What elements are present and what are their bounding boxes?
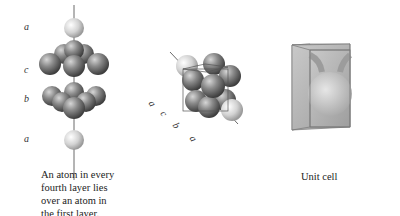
atom-layer-a-bottom <box>64 130 84 150</box>
left-caption: An atom in every fourth layer lies over … <box>41 168 151 216</box>
layer-b <box>42 82 106 119</box>
left-caption-line: the first layer. <box>41 207 151 216</box>
layer-label-b: b <box>24 93 29 104</box>
layer-label-a-bottom: a <box>24 133 29 144</box>
packed-cube <box>170 52 243 124</box>
unit-cell-cube <box>292 44 352 130</box>
layer-c <box>39 40 109 77</box>
left-caption-line: fourth layer lies <box>41 181 151 194</box>
left-caption-line: over an atom in <box>41 194 151 207</box>
layer-label-a-top: a <box>24 21 29 32</box>
atom-layer-a-top <box>64 18 84 38</box>
layer-stack <box>39 5 109 180</box>
left-caption-line: An atom in every <box>41 168 151 181</box>
layer-label-c: c <box>24 64 28 75</box>
unit-cell-caption: Unit cell <box>301 170 337 183</box>
